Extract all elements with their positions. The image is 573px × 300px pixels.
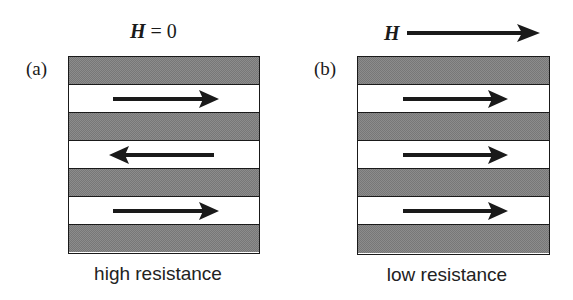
magnetic-layer (358, 85, 549, 113)
magnetic-layer (358, 141, 549, 169)
field-symbol: H (130, 20, 146, 42)
magnetization-right-arrow-icon (69, 197, 258, 224)
field-label-applied: H (384, 23, 400, 43)
magnetic-layer (69, 197, 259, 225)
nonmagnetic-layer (69, 169, 259, 197)
magnetization-right-arrow-icon (358, 197, 548, 224)
multilayer-stack-b (357, 56, 550, 255)
magnetic-layer (69, 141, 259, 169)
nonmagnetic-layer (69, 225, 259, 252)
field-symbol: H (384, 22, 400, 44)
magnetic-layer (358, 197, 549, 225)
caption-high-resistance: high resistance (68, 264, 248, 283)
magnetization-left-arrow-icon (69, 141, 258, 168)
field-value: = 0 (146, 20, 177, 42)
magnetic-layer (69, 85, 259, 113)
field-label-zero: H = 0 (130, 21, 177, 41)
nonmagnetic-layer (358, 57, 549, 85)
nonmagnetic-layer (358, 169, 549, 197)
magnetization-right-arrow-icon (358, 141, 548, 168)
nonmagnetic-layer (69, 57, 259, 85)
applied-field-arrow-icon (405, 22, 543, 46)
magnetization-right-arrow-icon (358, 85, 548, 112)
nonmagnetic-layer (69, 113, 259, 141)
panel-label-b: (b) (314, 59, 336, 78)
magnetization-right-arrow-icon (69, 85, 258, 112)
caption-low-resistance: low resistance (372, 265, 522, 284)
nonmagnetic-layer (358, 225, 549, 253)
panel-label-a: (a) (26, 59, 47, 78)
multilayer-stack-a (68, 56, 260, 254)
nonmagnetic-layer (358, 113, 549, 141)
